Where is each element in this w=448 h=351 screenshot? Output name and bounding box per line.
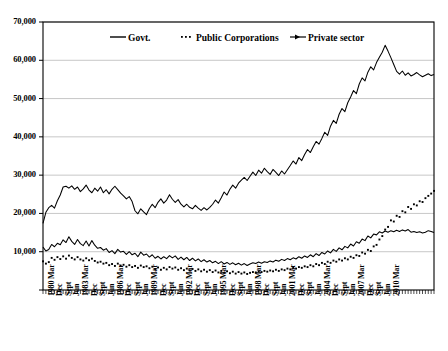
x-axis-tick-label: 1989 Mar [150, 264, 159, 296]
data-point [54, 259, 56, 261]
x-axis-tick-label: 1995 Mar [219, 264, 228, 296]
data-point [399, 216, 401, 218]
legend-item-0[interactable]: Govt. [110, 33, 150, 44]
data-point [180, 267, 182, 269]
data-point [350, 256, 352, 258]
data-point [390, 219, 392, 221]
x-axis-tick-label: Jun [245, 284, 254, 296]
data-point [427, 195, 429, 197]
data-point [160, 269, 162, 271]
data-point [275, 269, 277, 271]
x-axis-tick-label: Sept [167, 282, 176, 296]
data-point [82, 260, 84, 262]
x-axis-tick-label: Jun [107, 284, 116, 296]
chart-container: 010,00020,00030,00040,00050,00060,00070,… [0, 0, 448, 351]
data-point [232, 271, 234, 273]
data-point [229, 272, 231, 274]
y-axis-tick-label: 30,000 [0, 169, 36, 179]
data-point [238, 271, 240, 273]
x-axis-tick-label: Sept [374, 282, 383, 296]
data-point [140, 265, 142, 267]
data-point [367, 249, 369, 251]
data-point [100, 261, 102, 263]
data-point [361, 252, 363, 254]
data-point [174, 267, 176, 269]
data-point [249, 272, 251, 274]
data-point [146, 265, 148, 267]
data-point [410, 208, 412, 210]
x-axis-tick-label: 1983 Mar [81, 264, 90, 296]
legend-marker-icon [110, 33, 126, 43]
data-point [393, 221, 395, 223]
data-point [56, 256, 58, 258]
data-point [355, 254, 357, 256]
data-point [347, 258, 349, 260]
data-point [341, 260, 343, 262]
x-axis-tick-label: Sept [98, 282, 107, 296]
data-point [419, 200, 421, 202]
data-point [422, 201, 424, 203]
data-point [131, 266, 133, 268]
data-point [307, 266, 309, 268]
data-point [413, 203, 415, 205]
data-point [378, 239, 380, 241]
data-point [315, 263, 317, 265]
data-point [128, 264, 130, 266]
legend-marker-icon [290, 33, 306, 43]
data-point [42, 260, 44, 262]
data-point [134, 265, 136, 267]
data-point [381, 235, 383, 237]
x-axis-tick-label: Jun [176, 284, 185, 296]
data-point [407, 206, 409, 208]
data-point [62, 255, 64, 257]
legend-label: Govt. [128, 33, 150, 43]
data-point [108, 264, 110, 266]
data-point [278, 270, 280, 272]
legend-item-2[interactable]: Private sector [290, 33, 364, 44]
data-point [85, 257, 87, 259]
x-axis-tick-label: Sept [305, 282, 314, 296]
data-point [105, 262, 107, 264]
x-axis-tick-label: Dec [124, 284, 133, 296]
data-point [304, 265, 306, 267]
y-axis-tick-label: 20,000 [0, 207, 36, 217]
data-point [396, 215, 398, 217]
legend-label: Private sector [308, 33, 364, 43]
legend-item-1[interactable]: Public Corporations [180, 33, 279, 44]
data-point [102, 263, 104, 265]
series-line-private-sector [43, 45, 434, 223]
data-point [177, 269, 179, 271]
data-point [263, 270, 265, 272]
data-point [143, 266, 145, 268]
data-point [194, 270, 196, 272]
data-point [433, 190, 435, 192]
data-point [79, 258, 81, 260]
x-axis-tick-label: Jun [383, 284, 392, 296]
x-axis-tick-label: Dec [55, 284, 64, 296]
y-axis-tick-label: 60,000 [0, 54, 36, 64]
x-axis-tick-label: 2010 Mar [392, 264, 401, 296]
data-point [269, 270, 271, 272]
data-point [373, 245, 375, 247]
x-axis-tick-label: Dec [193, 284, 202, 296]
data-point [243, 271, 245, 273]
data-point [384, 229, 386, 231]
data-point [301, 267, 303, 269]
data-point [424, 197, 426, 199]
data-point [163, 267, 165, 269]
x-axis-tick-label: Dec [262, 284, 271, 296]
x-axis-tick-label: Sept [236, 282, 245, 296]
data-point [312, 265, 314, 267]
data-point [272, 270, 274, 272]
legend-marker-icon [180, 33, 194, 43]
x-axis-tick-label: 2007 Mar [357, 264, 366, 296]
data-point [364, 253, 366, 255]
data-point [338, 258, 340, 260]
data-point [203, 269, 205, 271]
data-point [65, 258, 67, 260]
plot-border [43, 22, 434, 290]
data-point [235, 273, 237, 275]
data-point [376, 244, 378, 246]
data-point [404, 211, 406, 213]
data-point [206, 271, 208, 273]
